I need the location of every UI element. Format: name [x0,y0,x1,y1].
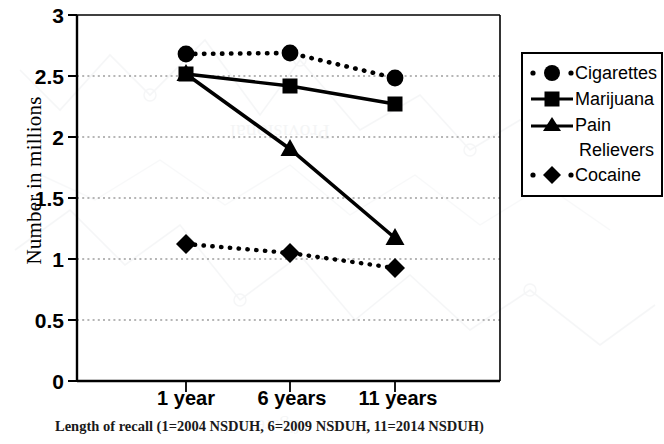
y-axis-ticks [68,15,77,381]
series-cocaine [176,234,405,278]
legend-marker-circle-icon [529,62,575,84]
data-point-marijuana-6yr [283,79,298,94]
data-point-cocaine-6yr [280,243,300,263]
legend-item-pain-relievers[interactable]: Pain [523,112,661,138]
x-tick-6-years: 6 years [258,388,327,408]
legend-item-cigarettes[interactable]: Cigarettes [523,60,661,86]
legend-item-marijuana[interactable]: Marijuana [523,86,661,112]
data-point-pain-relievers-6yr [281,139,300,156]
gridlines [77,76,500,320]
legend-label-pain: Pain [575,116,611,134]
x-axis-caption: Length of recall (1=2004 NSDUH, 6=2009 N… [55,418,484,435]
data-point-cigarettes-11yr [387,70,404,87]
data-point-cocaine-11yr [385,258,405,278]
chart-legend: Cigarettes Marijuana Pain Relievers [521,52,663,197]
legend-item-pain-relievers-continuation[interactable]: Relievers [523,138,661,162]
legend-item-cocaine[interactable]: Cocaine [523,162,661,188]
data-point-marijuana-11yr [388,97,403,112]
x-tick-11-years: 11 years [359,388,438,408]
legend-marker-square-icon [529,88,575,110]
legend-marker-triangle-icon [529,114,575,136]
x-axis-tick-labels: 1 year 6 years 11 years [0,388,664,416]
legend-label-marijuana: Marijuana [575,90,654,108]
chart-figure: Provisional figure Number in millions 3 … [0,0,664,444]
data-point-cigarettes-6yr [282,45,299,62]
legend-label-cigarettes: Cigarettes [575,64,657,82]
data-point-cigarettes-1yr [178,46,195,63]
legend-label-cocaine: Cocaine [575,166,641,184]
x-tick-1-year: 1 year [157,388,215,408]
series-marijuana [179,67,403,112]
data-point-cocaine-1yr [176,234,196,254]
legend-label-relievers: Relievers [579,141,654,159]
legend-marker-diamond-icon [529,164,575,186]
